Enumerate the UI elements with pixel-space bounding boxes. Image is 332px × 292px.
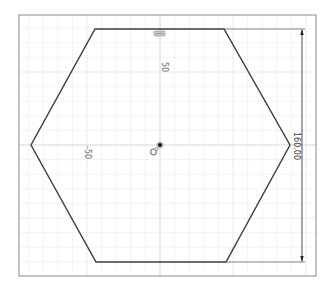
dimension-arrow-bottom-icon: [300, 256, 303, 262]
grid: [19, 15, 316, 276]
dimension-arrow-top-icon: [300, 29, 303, 35]
axis-label-y-50: 50: [160, 62, 169, 72]
horizontal-constraint-icon[interactable]: [154, 31, 165, 36]
axis-label-x-minus-50: -50: [83, 146, 92, 159]
dimension-value-label[interactable]: 160.00: [292, 132, 301, 160]
sketch-canvas[interactable]: 160.00 50 -50: [0, 0, 332, 292]
sketch-frame: [19, 15, 316, 276]
coincident-constraint-icon[interactable]: [151, 147, 158, 154]
